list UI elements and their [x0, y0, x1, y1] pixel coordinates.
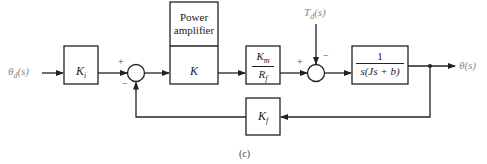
sum2-minus-sign: − — [323, 50, 329, 61]
sum1-circle — [128, 65, 145, 82]
kf-block: Kf — [246, 109, 280, 125]
plant-block: 1 s(Js + b) — [356, 50, 404, 77]
input-label: θd(s) — [8, 65, 29, 80]
sum2-circle — [308, 65, 325, 82]
figure-caption: (c) — [239, 148, 250, 159]
sum1-plus-sign: + — [118, 56, 124, 67]
power-amp-header: Power amplifier — [170, 11, 218, 37]
kf-to-sum1-arrow — [136, 83, 246, 118]
output-label: θ(s) — [459, 59, 476, 71]
sum1-minus-sign: − — [122, 78, 128, 89]
branch-point — [428, 64, 432, 68]
ki-block: Ki — [64, 64, 98, 80]
block-diagram-canvas — [0, 0, 487, 164]
power-amp-gain: K — [170, 64, 218, 79]
sum2-plus-sign: + — [297, 56, 303, 67]
km-rf-block: Km Rf — [252, 50, 274, 83]
disturbance-label: Td(s) — [304, 6, 326, 21]
